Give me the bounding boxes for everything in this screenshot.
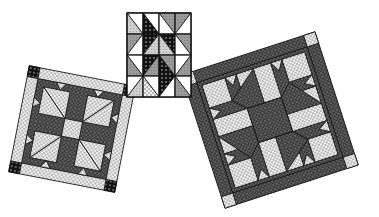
right-quilt-block [182, 32, 358, 208]
quilt-illustration [0, 0, 379, 217]
left-quilt-block [9, 66, 136, 193]
center-quilt-block [127, 13, 191, 97]
